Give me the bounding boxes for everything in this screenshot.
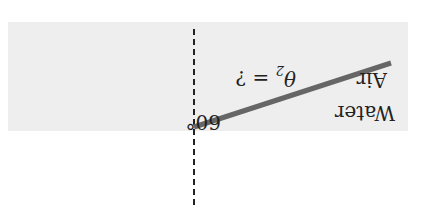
air-label: Air — [356, 68, 388, 92]
incident-angle-label: 60° — [186, 110, 221, 134]
refracted-angle-label: θ2 = ? — [235, 63, 296, 90]
refraction-diagram: Water Air 60° θ2 = ? — [0, 0, 421, 223]
water-label: Water — [334, 101, 395, 125]
theta-symbol: θ — [284, 66, 296, 90]
theta-value: = ? — [235, 66, 275, 90]
label-layer: Water Air 60° θ2 = ? — [0, 0, 421, 223]
theta-subscript: 2 — [276, 63, 285, 78]
